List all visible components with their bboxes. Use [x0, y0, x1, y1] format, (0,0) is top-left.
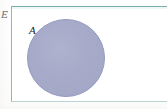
set-a-circle — [27, 19, 105, 97]
figure-canvas: E A — [0, 0, 167, 109]
universal-set-label: E — [1, 8, 8, 20]
set-a-label: A — [29, 24, 36, 36]
